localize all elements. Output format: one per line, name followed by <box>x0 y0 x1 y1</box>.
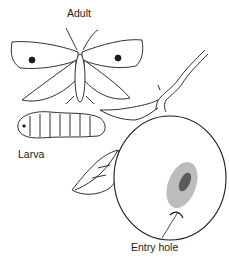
larva <box>18 112 105 138</box>
adult-label: Adult <box>67 8 91 19</box>
codling-moth-illustration: Adult Larva Entry hole <box>0 0 229 258</box>
larva-label: Larva <box>18 149 44 160</box>
adult-moth <box>11 28 142 104</box>
leaf <box>72 150 120 194</box>
entry-hole-label: Entry hole <box>131 242 178 253</box>
illustration-drawing <box>0 0 229 258</box>
apple-fruit <box>114 116 226 240</box>
